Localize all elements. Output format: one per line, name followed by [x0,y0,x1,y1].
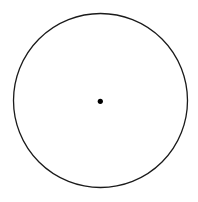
center-point [98,99,103,104]
diagram-canvas [0,0,198,202]
